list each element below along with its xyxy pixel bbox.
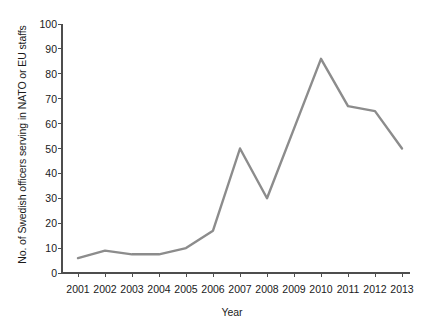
x-axis-title: Year bbox=[62, 306, 402, 318]
x-tick-label: 2013 bbox=[382, 283, 422, 295]
plot-area bbox=[0, 0, 424, 329]
tick-marks bbox=[58, 24, 402, 277]
data-series-line bbox=[78, 59, 402, 258]
line-chart: No. of Swedish officers serving in NATO … bbox=[0, 0, 424, 329]
axes bbox=[62, 24, 410, 274]
